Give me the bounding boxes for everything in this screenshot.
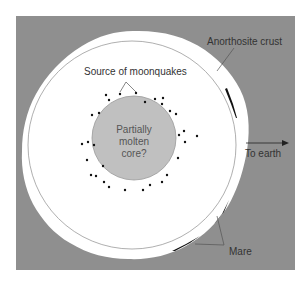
mare-label: Mare xyxy=(229,246,252,257)
moonquake-dot xyxy=(87,141,89,143)
moonquake-dot xyxy=(91,114,93,116)
moonquake-dot xyxy=(86,159,88,161)
moonquake-dot xyxy=(184,141,186,143)
moonquake-dot xyxy=(162,97,164,99)
moonquake-dot xyxy=(93,144,95,146)
moonquake-dot xyxy=(169,110,171,112)
moonquake-dot xyxy=(161,181,163,183)
moonquake-dot xyxy=(166,174,168,176)
moonquake-dot xyxy=(103,181,105,183)
earth-label: To earth xyxy=(245,148,281,159)
moonquake-dot xyxy=(135,92,137,94)
moonquake-dot xyxy=(81,143,83,145)
moonquakes-label: Source of moonquakes xyxy=(84,66,187,77)
moonquake-dot xyxy=(144,101,146,103)
moonquake-dot xyxy=(149,184,151,186)
moonquake-dot xyxy=(196,135,198,137)
moonquake-dot xyxy=(183,130,185,132)
moonquake-dot xyxy=(95,175,97,177)
moonquake-dot xyxy=(177,157,179,159)
crust-label: Anorthosite crust xyxy=(207,36,282,47)
moonquake-dot xyxy=(105,94,107,96)
moonquake-dot xyxy=(119,93,121,95)
moonquake-dot xyxy=(108,99,110,101)
moonquake-dot xyxy=(154,98,156,100)
core-label-line1: Partially xyxy=(116,124,152,135)
moonquake-dot xyxy=(98,112,100,114)
moonquake-dot xyxy=(102,165,104,167)
core-label-line2: molten xyxy=(119,136,149,147)
moonquake-dot xyxy=(178,134,180,136)
moonquake-dot xyxy=(161,103,163,105)
moonquake-dot xyxy=(175,113,177,115)
moonquake-dot xyxy=(108,186,110,188)
moonquake-dot xyxy=(124,189,126,191)
moonquake-dot xyxy=(142,189,144,191)
core-label-line3: core? xyxy=(121,148,146,159)
moon-cross-section-diagram: Anorthosite crust Source of moonquakes P… xyxy=(0,0,307,284)
moonquake-dot xyxy=(90,174,92,176)
